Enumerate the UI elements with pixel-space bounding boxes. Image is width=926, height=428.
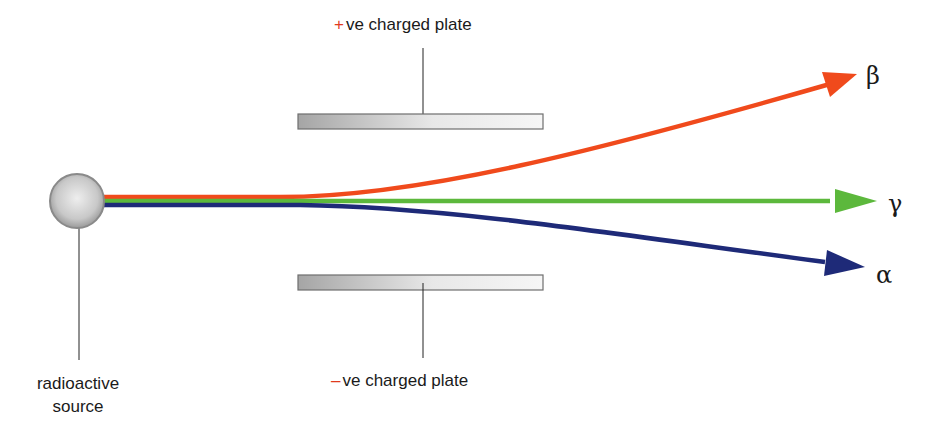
radiation-deflection-diagram <box>0 0 926 428</box>
gamma-label: γ <box>888 191 902 217</box>
radioactive-source-label: radioactive source <box>18 372 138 418</box>
plus-sign: + <box>334 15 344 34</box>
beta-ray-path <box>100 84 830 197</box>
source-label-line-1: radioactive <box>18 372 138 395</box>
negative-plate-label-text: ve charged plate <box>342 371 468 390</box>
beta-label: β <box>866 63 880 89</box>
minus-sign: – <box>331 371 340 390</box>
alpha-ray-path <box>100 205 825 262</box>
alpha-label: α <box>876 262 892 288</box>
negative-plate <box>298 275 543 290</box>
positive-plate-label-text: ve charged plate <box>346 15 472 34</box>
alpha-arrowhead-icon <box>824 250 865 276</box>
positive-plate-label: +ve charged plate <box>334 15 472 35</box>
gamma-arrowhead-icon <box>835 189 877 213</box>
beta-arrowhead-icon <box>822 72 857 97</box>
positive-plate <box>298 114 543 129</box>
radioactive-source-icon <box>50 174 104 228</box>
negative-plate-label: –ve charged plate <box>331 371 468 391</box>
source-label-line-2: source <box>18 395 138 418</box>
